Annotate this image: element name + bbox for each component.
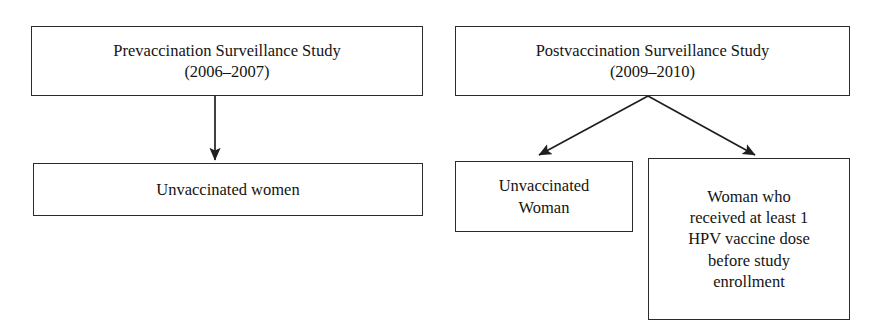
node-postvaccination-surveillance-study: Postvaccination Surveillance Study (2009… — [455, 26, 850, 96]
node-unvaccinated-women-label: Unvaccinated women — [152, 179, 303, 200]
node-unvaccinated-woman: Unvaccinated Woman — [455, 161, 633, 232]
node-prevaccination-surveillance-study: Prevaccination Surveillance Study (2006–… — [31, 26, 423, 96]
node-unvaccinated-woman-label: Unvaccinated Woman — [495, 175, 594, 217]
node-prevaccination-surveillance-study-label: Prevaccination Surveillance Study (2006–… — [109, 40, 344, 82]
node-postvaccination-surveillance-study-label: Postvaccination Surveillance Study (2009… — [532, 40, 774, 82]
node-unvaccinated-women: Unvaccinated women — [33, 163, 423, 216]
arrow-postvaccination-to-hpv-vaccinated-woman — [648, 96, 755, 155]
flow-diagram: Prevaccination Surveillance Study (2006–… — [0, 0, 875, 334]
node-hpv-vaccinated-woman: Woman who received at least 1 HPV vaccin… — [648, 158, 850, 320]
arrow-postvaccination-to-unvaccinated-woman — [539, 96, 648, 155]
node-hpv-vaccinated-woman-label: Woman who received at least 1 HPV vaccin… — [684, 186, 814, 292]
